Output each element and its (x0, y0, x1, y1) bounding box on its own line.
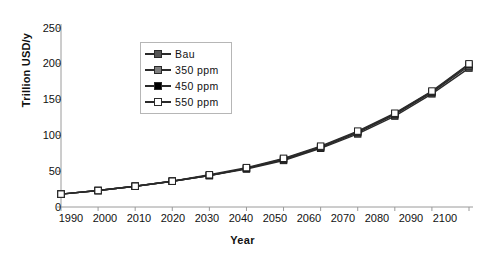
chart-legend: Bau 350 ppm 450 ppm 550 ppm (140, 42, 232, 114)
y-tick-label-0: 0 (15, 202, 61, 213)
legend-marker-icon-550ppm (145, 95, 171, 109)
legend-item-bau[interactable]: Bau (141, 46, 231, 62)
data-point-marker (355, 128, 361, 134)
legend-marker-icon-450ppm (145, 79, 171, 93)
legend-label-550ppm: 550 ppm (175, 97, 219, 108)
series-line-350-ppm (61, 66, 469, 194)
x-axis-title: Year (0, 234, 485, 246)
data-point-marker (392, 110, 398, 116)
series-line-550-ppm (61, 64, 469, 194)
data-point-marker (429, 88, 435, 94)
legend-marker-icon-350ppm (145, 63, 171, 77)
data-point-marker (95, 187, 101, 193)
legend-item-450ppm[interactable]: 450 ppm (141, 78, 231, 94)
data-point-marker (132, 183, 138, 189)
y-axis-title: Trillion USD/y (20, 0, 32, 140)
chart-plot-area (0, 0, 485, 270)
legend-item-350ppm[interactable]: 350 ppm (141, 62, 231, 78)
chart-figure: 250 200 150 100 50 0 1990 2000 2010 2020… (0, 0, 485, 270)
figure-caption (0, 258, 485, 270)
series-line-bau (61, 68, 469, 194)
data-point-marker (58, 191, 64, 197)
legend-label-bau: Bau (175, 49, 195, 60)
x-tick-label-2100: 2100 (422, 213, 468, 224)
series-line-450-ppm (61, 65, 469, 195)
data-point-marker (466, 61, 472, 67)
data-point-marker (317, 143, 323, 149)
y-tick-label-50: 50 (15, 166, 61, 177)
legend-label-350ppm: 350 ppm (175, 65, 219, 76)
legend-label-450ppm: 450 ppm (175, 81, 219, 92)
data-point-marker (169, 178, 175, 184)
legend-marker-icon-bau (145, 47, 171, 61)
legend-item-550ppm[interactable]: 550 ppm (141, 94, 231, 110)
data-point-marker (280, 155, 286, 161)
data-point-marker (206, 172, 212, 178)
data-point-marker (243, 164, 249, 170)
